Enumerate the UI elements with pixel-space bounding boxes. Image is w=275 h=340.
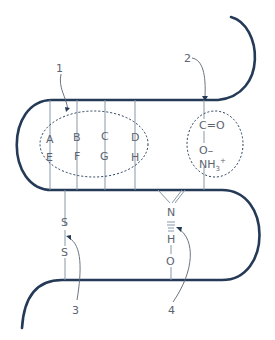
callout-arrows bbox=[60, 58, 208, 302]
residue-c: C bbox=[101, 130, 109, 143]
residue-f: F bbox=[74, 150, 80, 163]
hydrogen-bond-dashes bbox=[167, 222, 175, 231]
residue-e: E bbox=[46, 151, 53, 164]
sulfur-atom-2: S bbox=[61, 246, 68, 259]
nitrogen-atom: N bbox=[167, 206, 175, 219]
hydrogen-atom: H bbox=[167, 233, 175, 246]
oxygen-atom: O bbox=[166, 255, 175, 268]
callout-1: 1 bbox=[56, 62, 63, 75]
residue-b: B bbox=[73, 131, 81, 144]
residue-h: H bbox=[131, 151, 139, 164]
protein-structure-diagram: 1 2 3 4 A B C D E F G H C=O O– NH3+ S S … bbox=[0, 0, 275, 340]
residue-g: G bbox=[100, 150, 109, 163]
residue-d: D bbox=[131, 131, 139, 144]
callout-2: 2 bbox=[184, 52, 191, 65]
oxide-group: O– bbox=[199, 144, 213, 157]
sulfur-atom-1: S bbox=[61, 216, 68, 229]
carbonyl-group: C=O bbox=[199, 119, 225, 132]
ammonium-group: NH3+ bbox=[199, 157, 226, 173]
polypeptide-strand bbox=[17, 17, 260, 328]
hydrophobic-side-chains bbox=[50, 100, 135, 190]
callout-3: 3 bbox=[72, 304, 79, 317]
residue-a: A bbox=[46, 133, 54, 146]
callout-4: 4 bbox=[168, 304, 175, 317]
hydrophobic-region-outline bbox=[40, 111, 148, 177]
